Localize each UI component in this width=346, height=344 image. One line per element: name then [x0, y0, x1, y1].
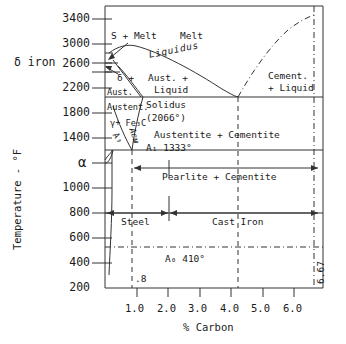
steel-label: Steel — [121, 217, 150, 227]
y-tick-label-3000: 3000 — [48, 38, 90, 50]
y-tick-label-1000: 1000 — [48, 182, 90, 194]
x-tick-marks — [137, 288, 294, 297]
solidus-temp-label: (2066°) — [146, 113, 186, 123]
y-tick-label-800: 800 — [48, 207, 90, 219]
x-tick-label-6: 6.0 — [283, 303, 302, 314]
y-tick-label-400: 400 — [48, 257, 90, 269]
y-axis-title: Temperature - °F — [12, 149, 23, 250]
a1-1333-label: A₁ 1333° — [146, 143, 192, 153]
x-tick-label-4: 4.0 — [220, 303, 239, 314]
alpha-label: α — [78, 155, 86, 169]
aust-plus-liquid-line1: Aust. + — [148, 73, 188, 83]
a0-410-label: A₀ 410° — [165, 254, 205, 264]
aust-label: Aust. — [107, 88, 133, 97]
y-tick-label-1800: 1800 — [48, 107, 90, 119]
solidus-label: Solidus — [146, 100, 186, 110]
y-tick-label-200: 200 — [48, 282, 90, 294]
s-plus-melt-label: S + Melt — [111, 31, 157, 41]
melt-label: Melt — [180, 31, 203, 41]
gamma-fe3c-label: γ+ Fe₃C — [110, 119, 146, 128]
y-tick-label-600: 600 — [48, 232, 90, 244]
x-tick-label-2: 2.0 — [157, 303, 176, 314]
y-tick-label-2200: 2200 — [48, 82, 90, 94]
austent-label: Austent. — [107, 103, 148, 112]
point-667-label: 6.67 — [316, 261, 326, 284]
pearlite-cementite-label: Pearlite + Cementite — [162, 172, 276, 182]
cement-liquid-label-line1: Cement. — [268, 71, 308, 81]
aust-plus-liquid-line2: Liquid — [154, 85, 188, 95]
y-tick-label-1400: 1400 — [48, 132, 90, 144]
x-tick-label-5: 5.0 — [251, 303, 270, 314]
cast-iron-label: Cast Iron — [212, 217, 263, 227]
delta-iron-label: δ iron — [14, 57, 56, 69]
x-tick-label-3: 3.0 — [188, 303, 207, 314]
delta-plus-label: δ + — [117, 73, 134, 83]
x-axis-title: % Carbon — [183, 322, 234, 333]
austentite-cementite-label: Austentite + Cementite — [154, 130, 280, 140]
y-tick-marks — [92, 19, 112, 263]
iron-carbon-phase-diagram: Temperature - °F 3400 3000 2600 2200 180… — [0, 0, 346, 344]
y-tick-label-3400: 3400 — [48, 13, 90, 25]
point-08-label: .8 — [135, 274, 146, 284]
cement-liquid-label-line2: + Liquid — [268, 83, 314, 93]
x-tick-label-1: 1.0 — [125, 303, 144, 314]
